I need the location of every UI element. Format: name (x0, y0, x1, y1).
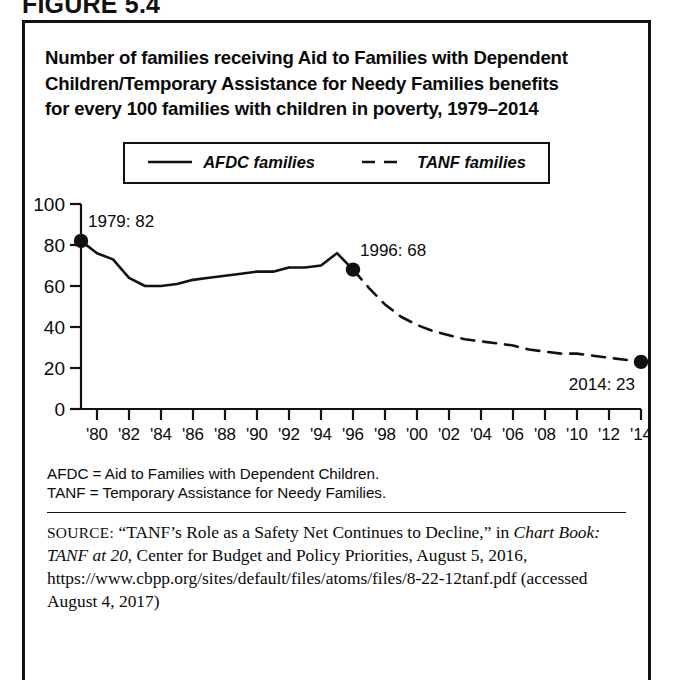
source-citation: SOURCE: “TANF’s Role as a Safety Net Con… (47, 521, 628, 613)
y-axis-tick-label: 60 (44, 275, 65, 296)
y-axis-tick-label: 80 (44, 234, 65, 255)
x-axis-tick-label: '14 (630, 425, 649, 444)
x-axis-tick-label: '84 (150, 425, 172, 444)
plot-area: 020406080100 '80'82'84'86'88'90'92'94'96… (25, 194, 648, 458)
chart-title-line-2: Children/Temporary Assistance for Needy … (45, 71, 628, 97)
x-axis-tick-label: '92 (278, 425, 300, 444)
x-axis-tick-label: '94 (310, 425, 332, 444)
abbreviation-notes: AFDC = Aid to Families with Dependent Ch… (47, 464, 628, 503)
x-axis-tick-label: '06 (502, 425, 524, 444)
x-axis-tick-label: '82 (118, 425, 140, 444)
x-axis-tick-label: '08 (534, 425, 556, 444)
legend-item-afdc: AFDC families (147, 153, 315, 172)
y-axis-tick-label: 100 (33, 194, 65, 215)
x-axis-tick-label: '86 (182, 425, 204, 444)
source-text-part-1: “TANF’s Role as a Safety Net Continues t… (114, 522, 513, 542)
y-axis-tick-label: 20 (44, 357, 65, 378)
data-marker-group: 1979: 821996: 682014: 23 (74, 211, 648, 393)
x-axis-tick-label: '80 (86, 425, 108, 444)
figure-number-label: FIGURE 5.4 (22, 0, 160, 19)
x-axis-tick-label: '00 (406, 425, 428, 444)
data-point-marker (634, 354, 648, 368)
legend-solid-line-icon (147, 156, 193, 168)
data-point-marker (74, 233, 88, 247)
data-point-annotation: 1979: 82 (88, 211, 154, 230)
x-axis-tick-label: '88 (214, 425, 236, 444)
y-axis-tick-label: 40 (44, 316, 65, 337)
chart-title: Number of families receiving Aid to Fami… (45, 45, 628, 122)
x-axis-tick-label: '04 (470, 425, 492, 444)
line-chart: 020406080100 '80'82'84'86'88'90'92'94'96… (29, 194, 649, 454)
chart-legend: AFDC families TANF families (123, 142, 550, 184)
legend-label-afdc: AFDC families (203, 153, 315, 172)
chart-title-line-1: Number of families receiving Aid to Fami… (45, 45, 628, 71)
source-text-part-2: , Center for Budget and Policy Prioritie… (47, 545, 587, 611)
chart-title-line-3: for every 100 families with children in … (45, 96, 628, 122)
x-axis-tick-label: '10 (566, 425, 588, 444)
legend-item-tanf: TANF families (361, 153, 526, 172)
x-axis: '80'82'84'86'88'90'92'94'96'98'00'02'04'… (81, 409, 649, 444)
data-point-annotation: 1996: 68 (360, 240, 426, 259)
source-prefix: SOURCE: (47, 524, 114, 541)
x-axis-tick-label: '96 (342, 425, 364, 444)
legend-wrapper: AFDC families TANF families (25, 142, 648, 184)
abbreviation-afdc: AFDC = Aid to Families with Dependent Ch… (47, 464, 628, 484)
y-axis-tick-label: 0 (54, 398, 65, 419)
series-line-tanf (353, 269, 641, 361)
legend-label-tanf: TANF families (417, 153, 526, 172)
abbreviation-tanf: TANF = Temporary Assistance for Needy Fa… (47, 483, 628, 503)
y-axis: 020406080100 (33, 194, 81, 420)
data-point-marker (346, 262, 360, 276)
series-line-afdc (81, 240, 353, 285)
x-axis-tick-label: '90 (246, 425, 268, 444)
x-axis-tick-label: '98 (374, 425, 396, 444)
figure-container: Number of families receiving Aid to Fami… (22, 20, 651, 680)
x-axis-tick-label: '02 (438, 425, 460, 444)
data-point-annotation: 2014: 23 (569, 374, 635, 393)
source-divider (47, 512, 626, 513)
legend-dashed-line-icon (361, 156, 407, 168)
x-axis-tick-label: '12 (598, 425, 620, 444)
